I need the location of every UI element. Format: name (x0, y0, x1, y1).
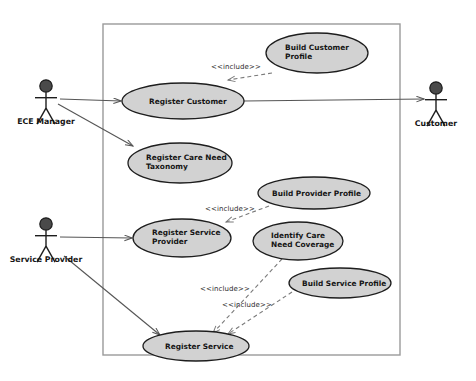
use-case-diagram: <<include>><<include>><<include>><<inclu… (0, 0, 476, 381)
use-case-layer: Register CustomerBuild CustomerProfileRe… (122, 33, 391, 361)
include-stereotype-label: <<include>> (200, 285, 250, 293)
use-case-label: Register Customer (149, 97, 227, 106)
association-service-provider-to-register-service-provider (60, 237, 132, 238)
actor-label: ECE Manager (17, 117, 75, 126)
use-case-register-care-need-taxonomy[interactable]: Register Care NeedTaxonomy (128, 143, 232, 183)
include-line-include-identify-care-need-coverage (213, 259, 282, 333)
actor-ece-manager[interactable]: ECE Manager (17, 80, 75, 126)
actor-customer[interactable]: Customer (415, 82, 457, 128)
association-register-customer-to-customer (244, 99, 424, 101)
association-service-provider-to-register-service (64, 256, 160, 335)
use-case-register-service-provider[interactable]: Register ServiceProvider (133, 219, 231, 257)
use-case-register-customer[interactable]: Register Customer (122, 83, 244, 119)
include-line-include-build-customer-profile (228, 73, 272, 80)
use-case-label: Build Provider Profile (272, 189, 361, 198)
use-case-build-service-profile[interactable]: Build Service Profile (289, 268, 391, 298)
actor-head-icon (40, 218, 52, 230)
include-stereotype-label: <<include>> (211, 63, 261, 71)
actor-head-icon (40, 80, 52, 92)
diagram-canvas: <<include>><<include>><<include>><<inclu… (0, 0, 476, 381)
use-case-build-customer-profile[interactable]: Build CustomerProfile (266, 33, 368, 73)
actor-head-icon (430, 82, 442, 94)
include-line-include-build-service-profile (228, 292, 292, 334)
use-case-ellipse[interactable] (266, 33, 368, 73)
use-case-label: Identify CareNeed Coverage (271, 231, 334, 249)
use-case-label: Build Service Profile (302, 279, 386, 288)
use-case-label: Register Service (165, 342, 233, 351)
use-case-identify-care-need-coverage[interactable]: Identify CareNeed Coverage (253, 222, 343, 260)
association-ece-manager-to-register-customer (60, 99, 121, 101)
use-case-build-provider-profile[interactable]: Build Provider Profile (258, 177, 370, 209)
actor-service-provider[interactable]: Service Provider (10, 218, 83, 264)
include-stereotype-label: <<include>> (205, 205, 255, 213)
actor-label: Customer (415, 119, 457, 128)
use-case-register-service[interactable]: Register Service (143, 331, 249, 361)
include-stereotype-label: <<include>> (222, 301, 272, 309)
actor-label: Service Provider (10, 255, 83, 264)
